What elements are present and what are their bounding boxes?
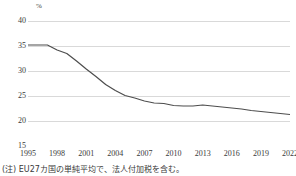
y-tick-label: 20	[2, 117, 26, 125]
x-tick-label: 1995	[14, 149, 42, 159]
x-tick-label: 2022	[276, 149, 296, 159]
x-tick-label: 2019	[247, 149, 275, 159]
y-tick-label: 40	[2, 17, 26, 25]
x-tick-label: 2001	[72, 149, 100, 159]
footnote-text: (注) EU27カ国の単純平均で、法人付加税を含む。	[2, 164, 184, 175]
x-axis-labels: 1995199820012004200720102013201620192022	[28, 149, 290, 161]
y-tick-label: 25	[2, 92, 26, 100]
y-tick-label: 30	[2, 67, 26, 75]
x-tick-label: 2013	[189, 149, 217, 159]
gridlines	[28, 22, 290, 147]
plot-area	[28, 21, 290, 146]
x-tick-label: 2016	[218, 149, 246, 159]
y-axis-unit-label: %	[36, 2, 42, 11]
x-tick-label: 2004	[101, 149, 129, 159]
data-series-line	[28, 45, 290, 115]
chart-figure: % 152025303540 1995199820012004200720102…	[0, 0, 296, 176]
x-tick-label: 2010	[160, 149, 188, 159]
x-tick-label: 2007	[130, 149, 158, 159]
x-tick-label: 1998	[43, 149, 71, 159]
line-chart-svg	[28, 21, 290, 146]
y-tick-label: 35	[2, 42, 26, 50]
